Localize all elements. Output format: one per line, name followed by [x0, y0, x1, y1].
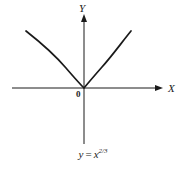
- origin-label: 0: [76, 89, 81, 99]
- caption-equals: =: [83, 148, 93, 160]
- x-axis-label: X: [167, 82, 176, 94]
- figure-caption: y=x2/3: [0, 148, 186, 160]
- caption-exponent: 2/3: [99, 147, 108, 155]
- x-axis-arrowhead: [155, 85, 163, 91]
- figure-container: Y X 0 y=x2/3: [0, 0, 186, 180]
- y-axis-label: Y: [79, 2, 87, 14]
- y-axis-arrowhead: [81, 14, 87, 22]
- curve-y-equals-x-pow-two-thirds: [26, 31, 131, 88]
